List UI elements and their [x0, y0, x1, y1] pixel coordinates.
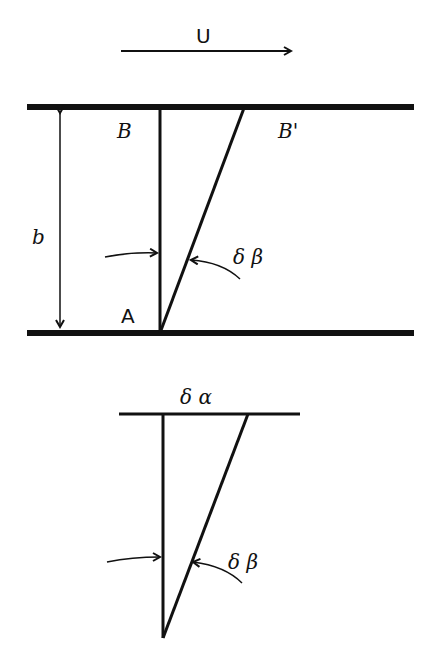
point-B-prime-label: B' [278, 121, 298, 141]
line-AB-prime [160, 108, 244, 333]
angle-arrow-left [105, 253, 157, 257]
angle-label-top: δ β [233, 247, 263, 267]
lower-top-label: δ α [180, 387, 212, 407]
point-A-label: A [121, 306, 135, 326]
velocity-label: U [196, 26, 211, 46]
angle-label-bottom: δ β [228, 552, 258, 572]
point-B-label: B [117, 121, 132, 141]
lower-slanted-line [163, 414, 248, 638]
shear-diagram [0, 0, 436, 668]
gap-label: b [32, 227, 45, 247]
lower-angle-arrow-left [107, 557, 160, 562]
